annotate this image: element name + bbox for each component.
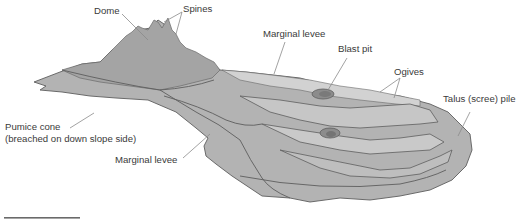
blast-pit-lower-inner [326,131,336,137]
leader-ogives-2 [394,78,400,98]
lava-flow-body [34,18,472,202]
label-marginal-levee-top: Marginal levee [263,28,325,39]
label-dome: Dome [94,5,120,16]
lava-flow-diagram: Dome Spines Marginal levee Blast pit Ogi… [0,0,526,221]
label-pumice-cone-line2: (breached on down slope side) [5,133,136,144]
leader-marginal-levee-top [274,42,285,74]
scale-bar [4,217,80,219]
label-spines: Spines [183,3,213,14]
label-talus: Talus (scree) pile [443,93,516,104]
leader-ogives-1 [380,78,400,92]
label-blast-pit: Blast pit [338,43,372,54]
label-pumice-cone-line1: Pumice cone [5,121,60,132]
label-ogives: Ogives [394,66,424,77]
label-marginal-levee-bottom: Marginal levee [115,154,177,165]
leader-pumice-cone [70,113,94,128]
dome-mass [62,18,220,90]
leader-spines-2 [176,12,182,34]
blast-pit-upper-inner [319,91,331,97]
